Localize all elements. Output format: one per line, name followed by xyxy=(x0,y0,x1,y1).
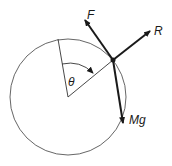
force-f-arrow xyxy=(85,20,113,60)
angle-arc xyxy=(62,63,93,73)
label-theta: θ xyxy=(68,75,75,89)
particle-dot xyxy=(111,58,116,63)
label-mg: Mg xyxy=(129,113,146,127)
diagram-svg: F R Mg θ xyxy=(0,0,172,166)
label-f: F xyxy=(87,8,95,22)
force-mg-arrow xyxy=(113,60,123,123)
vertical-radius xyxy=(58,39,68,97)
force-r-arrow xyxy=(113,31,150,60)
label-r: R xyxy=(154,24,163,38)
particle-radius xyxy=(68,60,113,97)
force-diagram: F R Mg θ xyxy=(0,0,172,166)
